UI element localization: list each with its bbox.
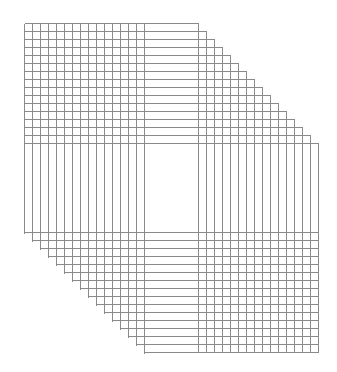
grid-artwork [0,0,337,372]
grid-lines-drawing [0,0,337,372]
